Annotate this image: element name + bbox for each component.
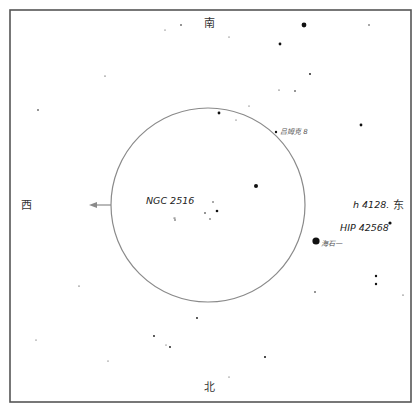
star-icon — [314, 291, 316, 293]
star-chart: 南 北 西 东 NGC 2516 h 4128. HIP 42568 海石一 吕… — [0, 0, 419, 409]
star-icon — [36, 340, 37, 341]
label-ngc-2516: NGC 2516 — [146, 195, 194, 206]
star-icon — [153, 335, 155, 337]
star-icon — [169, 346, 171, 348]
star-icon — [312, 237, 319, 244]
star-icon — [302, 23, 307, 28]
star-icon — [175, 218, 176, 219]
star-icon — [216, 210, 219, 213]
direction-east-label: 东 — [393, 199, 404, 212]
star-icon — [375, 275, 377, 277]
west-arrow-icon — [89, 202, 111, 208]
star-icon — [375, 283, 377, 285]
star-icon — [229, 37, 230, 38]
star-icon — [402, 294, 403, 295]
star-icon — [196, 317, 198, 319]
direction-south-label: 南 — [204, 17, 215, 30]
star-icon — [254, 184, 258, 188]
star-field — [36, 23, 404, 378]
star-icon — [166, 345, 167, 346]
star-icon — [218, 112, 221, 115]
label-hip-42568: HIP 42568 — [340, 222, 389, 233]
star-icon — [368, 24, 369, 25]
direction-west-label: 西 — [21, 199, 32, 212]
star-icon — [309, 73, 311, 75]
star-icon — [236, 120, 237, 121]
map-frame — [10, 10, 411, 402]
star-icon — [108, 361, 109, 362]
star-icon — [174, 219, 175, 220]
star-icon — [104, 75, 105, 76]
star-icon — [37, 109, 39, 111]
star-icon — [294, 90, 296, 92]
star-icon — [264, 356, 266, 358]
star-icon — [165, 30, 166, 31]
star-icon — [279, 43, 282, 46]
star-icon — [360, 124, 363, 127]
label-h-4128: h 4128. — [353, 199, 389, 210]
label-haishiyi: 海石一 — [321, 240, 343, 248]
star-icon — [229, 377, 230, 378]
star-icon — [275, 131, 277, 133]
star-icon — [180, 24, 182, 26]
star-icon — [78, 285, 79, 286]
star-icon — [209, 218, 210, 219]
star-icon — [212, 201, 213, 202]
star-icon — [174, 218, 175, 219]
star-icon — [278, 89, 279, 90]
direction-north-label: 北 — [204, 381, 215, 394]
field-of-view-circle — [111, 108, 305, 302]
star-icon — [204, 212, 206, 214]
star-icon — [249, 106, 250, 107]
label-lvkeke-b: 吕姆克 8 — [280, 128, 308, 136]
